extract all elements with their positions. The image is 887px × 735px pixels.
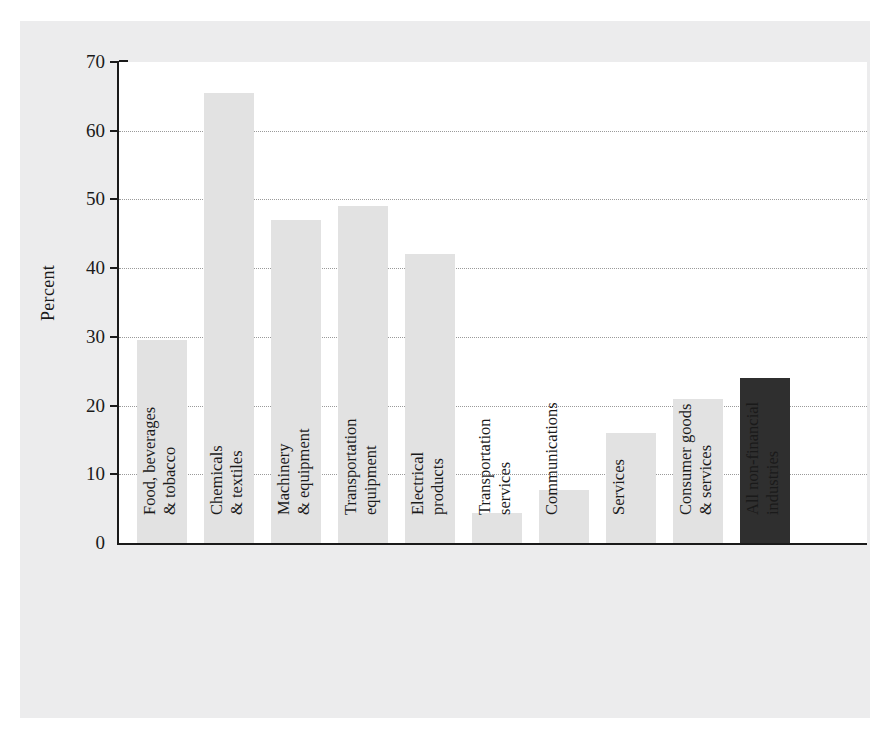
x-axis-tick-label: Transportationservices <box>475 418 515 515</box>
y-axis-tick <box>110 130 119 132</box>
x-axis-label-line: & equipment <box>294 428 314 515</box>
x-axis-tick-label: Communications <box>542 402 562 515</box>
bar[interactable] <box>472 513 522 543</box>
x-axis-tick-label: Machinery& equipment <box>274 428 314 515</box>
x-axis-tick-label: Chemicals& textiles <box>207 445 247 515</box>
y-axis-tick-label: 10 <box>86 463 105 485</box>
figure-title <box>0 0 887 18</box>
x-axis-label-line: Consumer goods <box>676 404 696 515</box>
y-axis-tick <box>110 198 119 200</box>
y-axis-tick <box>110 267 119 269</box>
x-axis-label-line: Chemicals <box>207 445 227 515</box>
y-axis-label: Percent <box>38 265 59 321</box>
x-axis-tick-label: Electricalproducts <box>408 452 448 515</box>
x-axis-label-line: Communications <box>542 402 562 515</box>
y-axis-tick <box>110 405 119 407</box>
y-axis-tick-label: 40 <box>86 257 105 279</box>
x-axis-label-line: & tobacco <box>160 407 180 515</box>
y-axis-tick-label: 30 <box>86 326 105 348</box>
y-axis-tick <box>110 336 119 338</box>
x-axis-label-line: Transportation <box>341 418 361 515</box>
x-axis-label-line: equipment <box>361 418 381 515</box>
x-axis-tick-label: Consumer goods& services <box>676 404 716 515</box>
chart-figure: Percent 010203040506070 Food, beverages&… <box>20 21 870 718</box>
x-axis-label-line: Transportation <box>475 418 495 515</box>
x-axis-label-line: Machinery <box>274 428 294 515</box>
x-axis-tick-label: Food, beverages& tobacco <box>140 407 180 515</box>
x-axis-label-line: Food, beverages <box>140 407 160 515</box>
y-axis-tick-label: 0 <box>96 532 106 554</box>
x-axis-label-line: Electrical <box>408 452 428 515</box>
y-axis-tick-label: 70 <box>86 51 105 73</box>
y-axis-tick-label: 60 <box>86 120 105 142</box>
y-axis-tick-label: 20 <box>86 395 105 417</box>
y-axis-tick-label: 50 <box>86 188 105 210</box>
x-axis-label-line: industries <box>763 402 783 515</box>
x-axis-label-line: services <box>495 418 515 515</box>
x-axis-tick-label: Services <box>609 459 629 515</box>
x-axis-label-line: All non-financial <box>743 402 763 515</box>
x-axis-label-line: products <box>428 452 448 515</box>
x-axis-tick-label: All non-financialindustries <box>743 402 783 515</box>
x-axis-label-line: & services <box>696 404 716 515</box>
x-axis-label-line: & textiles <box>227 445 247 515</box>
y-axis-tick <box>110 61 119 63</box>
y-axis-tick <box>110 473 119 475</box>
x-axis-label-line: Services <box>609 459 629 515</box>
axis-top-stub <box>119 60 128 62</box>
x-axis-tick-label: Transportationequipment <box>341 418 381 515</box>
